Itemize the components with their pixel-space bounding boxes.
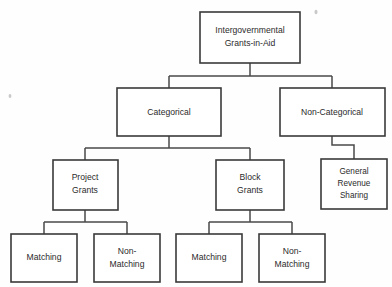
node-label-line1: Non- [118,246,137,256]
node-label-line3: Sharing [340,191,369,200]
connector-root-to-level1 [169,63,332,88]
node-label-line1: Non-Categorical [301,107,363,117]
node-label-line1: Matching [192,252,227,262]
node-label-line2: Grants [72,185,98,195]
node-categorical[interactable]: Categorical [117,88,221,136]
node-general-revenue-sharing[interactable]: General Revenue Sharing [321,159,387,209]
node-box [94,234,160,282]
node-project-non-matching[interactable]: Non- Matching [94,234,160,282]
node-box [259,234,325,282]
node-label-line1: Categorical [147,107,191,117]
node-label-line2: Grants [237,185,263,195]
scan-speck [315,10,318,14]
connector-block-grants-to-leaves [209,210,292,234]
scan-speck [9,94,12,98]
node-intergovernmental-grants-in-aid[interactable]: Intergovernmental Grants-in-Aid [200,12,300,63]
node-label-line1: Project [72,172,99,182]
node-label-line1: Matching [27,252,62,262]
node-label-line2: Revenue [338,179,371,188]
connector-categorical-to-children [85,136,250,160]
connector-noncategorical-to-general-revenue-sharing [332,136,354,159]
node-label-line1: Non- [283,246,302,256]
node-label-line1: Intergovernmental [215,25,284,35]
node-label-line2: Matching [275,259,310,269]
node-label-line2: Grants-in-Aid [225,38,276,48]
node-project-grants[interactable]: Project Grants [53,160,118,210]
node-label-line2: Matching [110,259,145,269]
diagram-root: Intergovernmental Grants-in-Aid Categori… [0,0,392,287]
node-block-matching[interactable]: Matching [176,234,242,282]
node-project-matching[interactable]: Matching [11,234,77,282]
node-block-non-matching[interactable]: Non- Matching [259,234,325,282]
grants-hierarchy-diagram: Intergovernmental Grants-in-Aid Categori… [0,0,392,287]
node-block-grants[interactable]: Block Grants [216,160,284,210]
node-label-line1: General [339,167,368,176]
connector-project-grants-to-leaves [44,210,127,234]
node-label-line1: Block [239,172,261,182]
node-non-categorical[interactable]: Non-Categorical [280,88,385,136]
